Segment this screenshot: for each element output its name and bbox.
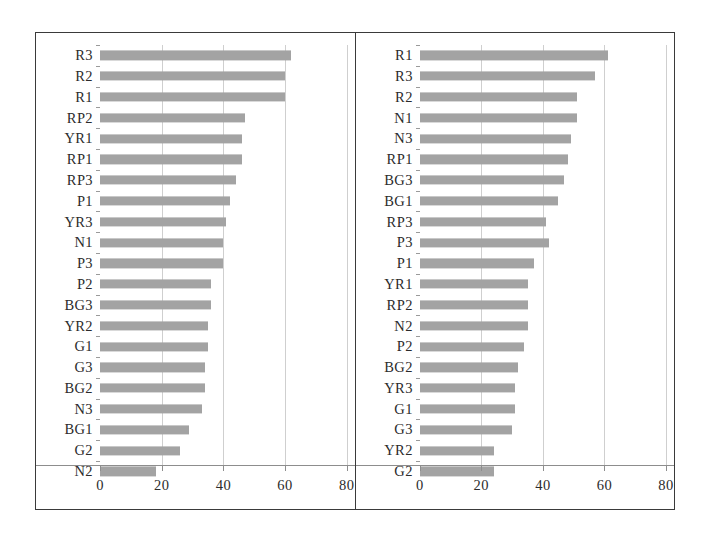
bar-row: R3 [36,45,355,66]
y-axis-tick [96,253,100,254]
bar-category-label: BG2 [356,360,420,375]
bar [100,134,242,143]
y-axis-tick [416,419,420,420]
bar [420,404,515,413]
bar-track [100,232,355,253]
bar-row: R1 [36,87,355,108]
bar-row: YR1 [36,128,355,149]
bar [100,92,285,101]
bar-track [100,419,355,440]
bar [100,363,205,372]
bar-category-label: R2 [356,90,420,105]
bar-category-label: P3 [356,235,420,250]
x-axis-tick [543,466,544,471]
bar-category-label: YR2 [356,443,420,458]
bar-category-label: YR3 [36,215,100,230]
bar-track [420,149,674,170]
bar-row: N3 [36,399,355,420]
bar [420,51,608,60]
bar [100,72,285,81]
bar-category-label: G3 [36,360,100,375]
y-axis-tick [96,107,100,108]
bar-track [100,45,355,66]
bar-category-label: YR1 [36,131,100,146]
bar-category-label: G1 [356,402,420,417]
bar-track [100,87,355,108]
bar [100,425,189,434]
y-axis-tick [416,170,420,171]
x-axis-tick [666,466,667,471]
bar-row: R2 [36,66,355,87]
y-axis-tick [96,66,100,67]
y-axis-tick [416,211,420,212]
x-axis-tick-label: 40 [216,477,232,494]
x-axis-tick-label: 20 [474,477,490,494]
bar [420,342,525,351]
bar-row: G3 [36,357,355,378]
bar [420,92,577,101]
y-axis-tick [96,357,100,358]
bar [420,134,571,143]
bar-category-label: BG1 [36,422,100,437]
bar-row: YR2 [356,440,674,461]
y-axis-tick [96,419,100,420]
y-axis-tick [416,232,420,233]
bar-track [100,191,355,212]
y-axis-tick [96,461,100,462]
y-axis-tick [96,336,100,337]
bar-track [420,191,674,212]
y-axis-tick [416,295,420,296]
bar-category-label: P3 [36,256,100,271]
bar-category-label: YR2 [36,319,100,334]
bar-track [420,128,674,149]
bar-row: RP2 [36,107,355,128]
bar-row: P1 [356,253,674,274]
bar [420,238,549,247]
x-axis-tick [100,466,101,471]
bar [100,384,205,393]
bar-category-label: R2 [36,69,100,84]
bar-track [100,66,355,87]
y-axis-tick [416,149,420,150]
bar-row: BG1 [356,191,674,212]
bar [420,446,494,455]
y-axis-tick [416,45,420,46]
bar-category-label: RP1 [36,152,100,167]
bar [420,300,528,309]
y-axis-tick [416,399,420,400]
bar [100,280,211,289]
bar [420,196,558,205]
bar-track [100,149,355,170]
y-axis-tick [96,378,100,379]
y-axis-tick [96,191,100,192]
bar-row: RP3 [356,211,674,232]
bar-row: P3 [36,253,355,274]
y-axis-tick [96,211,100,212]
bar-row: G1 [36,336,355,357]
bar [420,217,546,226]
bar-category-label: RP1 [356,152,420,167]
y-axis-tick [416,128,420,129]
bar [420,259,534,268]
figure-frame: R3R2R1RP2YR1RP1RP3P1YR3N1P3P2BG3YR2G1G3B… [35,32,675,510]
bar [100,196,230,205]
bar-track [420,419,674,440]
x-axis-tick-label: 40 [535,477,551,494]
bar-category-label: G3 [356,422,420,437]
bar [420,176,565,185]
bar-row: BG2 [36,378,355,399]
bar-category-label: N1 [36,235,100,250]
bar-row: BG3 [36,295,355,316]
x-axis-tick [347,466,348,471]
y-axis-tick [416,378,420,379]
y-axis-tick [96,128,100,129]
bar-row: RP1 [356,149,674,170]
bar-category-label: BG2 [36,381,100,396]
bar-track [420,274,674,295]
y-axis-tick [96,274,100,275]
bar-track [420,87,674,108]
bar-row: R1 [356,45,674,66]
bar-category-label: RP3 [356,215,420,230]
y-axis-tick [416,66,420,67]
bar-category-label: N2 [356,319,420,334]
